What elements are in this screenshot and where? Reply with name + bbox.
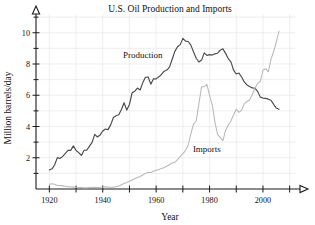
chart-title: U.S. Oil Production and Imports	[108, 4, 232, 14]
x-axis-arrowhead	[300, 185, 308, 192]
oil-production-imports-chart: 19201940196019802000 246810 ProductionIm…	[0, 0, 315, 225]
chart-figure: 19201940196019802000 246810 ProductionIm…	[0, 0, 315, 225]
x-tick-label: 1920	[41, 196, 57, 205]
y-axis-arrowhead	[32, 6, 39, 14]
y-tick-label: 2	[26, 154, 30, 163]
x-tick-labels: 19201940196019802000	[41, 196, 271, 205]
series-annotations: ProductionImports	[123, 50, 221, 155]
y-tick-label: 8	[26, 60, 30, 69]
x-tick-label: 2000	[255, 196, 271, 205]
y-tick-label: 10	[22, 29, 30, 38]
y-tick-labels: 246810	[22, 29, 30, 163]
series-layer	[49, 31, 279, 188]
y-axis-title: Million barrels/day	[3, 71, 13, 144]
y-tick-label: 6	[26, 91, 30, 100]
series-annotation: Imports	[193, 144, 221, 154]
x-tick-label: 1960	[148, 196, 164, 205]
gridlines-layer	[36, 14, 295, 189]
series-annotation: Production	[123, 50, 163, 60]
series-line-imports	[49, 31, 279, 188]
x-tick-label: 1940	[95, 196, 111, 205]
x-axis-title: Year	[161, 212, 179, 222]
y-tick-label: 4	[26, 123, 30, 132]
x-tick-label: 1980	[201, 196, 217, 205]
